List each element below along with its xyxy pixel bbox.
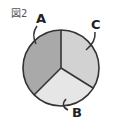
- pie-chart: A C B: [0, 0, 120, 124]
- label-c: C: [91, 17, 101, 32]
- label-a: A: [36, 11, 46, 26]
- label-b: B: [72, 105, 82, 120]
